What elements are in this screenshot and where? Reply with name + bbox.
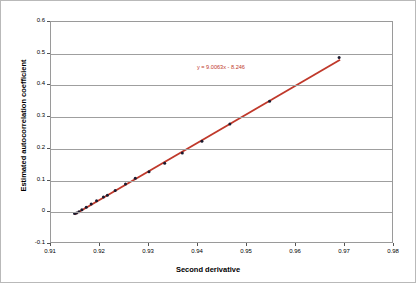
- trendline-equation-label: y = 9.0063x - 8.246: [197, 64, 245, 70]
- y-axis-tick-label: -0.1: [5, 239, 45, 246]
- gridline: [51, 117, 392, 118]
- y-axis-tick-mark: [47, 53, 50, 54]
- y-axis-tick-mark: [47, 21, 50, 22]
- data-point-marker: [228, 123, 231, 126]
- x-axis-tick-mark: [295, 243, 296, 246]
- gridline: [51, 212, 392, 213]
- x-axis-tick-mark: [197, 243, 198, 246]
- gridline: [51, 54, 392, 55]
- data-point-marker: [200, 140, 203, 143]
- data-point-marker: [124, 183, 127, 186]
- y-axis-tick-mark: [47, 180, 50, 181]
- x-axis-tick-mark: [246, 243, 247, 246]
- y-axis-title: Estimated autocorrelation coefficient: [19, 41, 28, 211]
- y-axis-tick-label: 0.6: [5, 17, 45, 24]
- data-point-marker: [148, 170, 151, 173]
- x-axis-tick-label: 0.98: [373, 248, 413, 255]
- data-point-marker: [163, 162, 166, 165]
- x-axis-tick-mark: [148, 243, 149, 246]
- data-point-marker: [85, 206, 88, 209]
- x-axis-tick-mark: [50, 243, 51, 246]
- data-point-marker: [114, 189, 117, 192]
- x-axis-tick-mark: [99, 243, 100, 246]
- data-point-marker: [268, 100, 271, 103]
- y-axis-tick-mark: [47, 116, 50, 117]
- y-axis-tick-mark: [47, 84, 50, 85]
- gridline: [51, 181, 392, 182]
- x-axis-tick-label: 0.94: [177, 248, 217, 255]
- data-point-marker: [102, 196, 105, 199]
- data-point-marker: [90, 203, 93, 206]
- y-axis-tick-mark: [47, 211, 50, 212]
- x-axis-tick-label: 0.95: [226, 248, 266, 255]
- data-point-marker: [134, 177, 137, 180]
- x-axis-tick-mark: [344, 243, 345, 246]
- chart-figure: y = 9.0063x - 8.246 0.60.50.40.30.20.10-…: [0, 0, 416, 283]
- gridline: [51, 149, 392, 150]
- data-point-marker: [338, 56, 341, 59]
- data-point-marker: [95, 199, 98, 202]
- data-point-marker: [181, 151, 184, 154]
- x-axis-tick-label: 0.91: [30, 248, 70, 255]
- y-axis-tick-mark: [47, 148, 50, 149]
- x-axis-tick-label: 0.96: [275, 248, 315, 255]
- plot-area: y = 9.0063x - 8.246: [50, 21, 393, 243]
- gridline: [51, 85, 392, 86]
- x-axis-tick-label: 0.93: [128, 248, 168, 255]
- x-axis-tick-label: 0.92: [79, 248, 119, 255]
- data-point-marker: [106, 194, 109, 197]
- x-axis-tick-mark: [393, 243, 394, 246]
- x-axis-tick-label: 0.97: [324, 248, 364, 255]
- x-axis-title: Second derivative: [1, 265, 415, 274]
